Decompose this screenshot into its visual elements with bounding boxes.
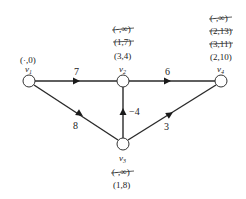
labels-v3: (-,∞) (1,8)	[111, 167, 134, 190]
edges	[34, 81, 216, 140]
node-name-v3: v3	[119, 153, 126, 164]
weight-v3-v2: −4	[129, 106, 140, 117]
label-v1-0: (·,0)	[20, 55, 36, 65]
edge-v1-v3	[34, 85, 118, 140]
node-name-v4: v4	[217, 64, 224, 75]
weight-v1-v3: 8	[73, 120, 78, 131]
labels-v2: (-,∞) (1,7) (3,4)	[112, 24, 134, 61]
arrow-icon	[165, 109, 175, 119]
weight-v1-v2: 7	[74, 66, 79, 77]
arrow-icon	[120, 108, 127, 115]
weight-v2-v4: 6	[165, 66, 170, 77]
label-v3-1: (1,8)	[113, 180, 130, 190]
node-v2[interactable]	[117, 75, 129, 87]
arrow-icon	[164, 78, 171, 85]
graph-canvas: 7 6 8 −4 3 v1 v2 v4 v3 (·,0) (-,∞) (1,7)…	[0, 0, 246, 199]
arrow-icon	[73, 78, 80, 85]
label-v2-2: (3,4)	[114, 51, 131, 61]
node-name-v1: v1	[25, 64, 32, 75]
node-name-v2: v2	[119, 64, 126, 75]
node-v3[interactable]	[117, 138, 129, 150]
weight-v3-v4: 3	[164, 121, 169, 132]
labels-v1: (·,0)	[20, 55, 36, 65]
labels-v4: (-,∞) (2,13) (3,11) (2,10)	[209, 13, 233, 62]
label-v4-3: (2,10)	[210, 52, 232, 62]
node-v1[interactable]	[23, 75, 35, 87]
node-v4[interactable]	[215, 75, 227, 87]
